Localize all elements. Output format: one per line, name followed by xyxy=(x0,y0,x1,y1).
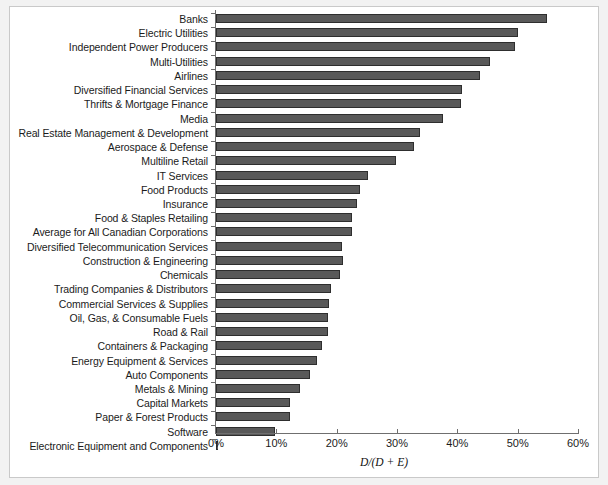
y-axis-tick xyxy=(211,397,216,398)
y-axis-tick xyxy=(211,212,216,213)
y-axis-tick xyxy=(211,69,216,70)
bar-row: IT Services xyxy=(10,169,598,183)
y-axis-tick xyxy=(211,183,216,184)
y-axis-tick xyxy=(211,254,216,255)
bar-row: Paper & Forest Products xyxy=(10,410,598,424)
bar-row: Trading Companies & Distributors xyxy=(10,282,598,296)
bar-row: Diversified Telecommunication Services xyxy=(10,240,598,254)
y-axis-tick xyxy=(211,382,216,383)
category-label: Chemicals xyxy=(160,268,208,282)
y-axis-tick xyxy=(211,112,216,113)
bar xyxy=(216,256,343,265)
y-axis-tick xyxy=(211,169,216,170)
bar xyxy=(216,14,547,23)
x-axis-tick xyxy=(578,429,579,434)
y-axis-tick xyxy=(211,126,216,127)
y-axis-tick xyxy=(211,155,216,156)
y-axis-tick xyxy=(211,411,216,412)
bar-row: Road & Rail xyxy=(10,325,598,339)
y-axis-tick xyxy=(211,269,216,270)
category-label: Commercial Services & Supplies xyxy=(59,297,208,311)
bar-row: Food Products xyxy=(10,183,598,197)
x-axis-tick-label: 40% xyxy=(446,437,468,449)
bar-row: Average for All Canadian Corporations xyxy=(10,225,598,239)
category-label: Capital Markets xyxy=(137,396,208,410)
bar xyxy=(216,384,300,393)
bar xyxy=(216,42,515,51)
bar-row: Chemicals xyxy=(10,268,598,282)
bar-row: Containers & Packaging xyxy=(10,339,598,353)
bar xyxy=(216,28,518,37)
bar-row: Aerospace & Defense xyxy=(10,140,598,154)
bar xyxy=(216,398,290,407)
bar-row: Metals & Mining xyxy=(10,382,598,396)
y-axis-tick xyxy=(211,13,216,14)
bar xyxy=(216,327,328,336)
bar xyxy=(216,370,310,379)
category-label: Multiline Retail xyxy=(141,154,208,168)
bar-row: Electric Utilities xyxy=(10,26,598,40)
category-label: Metals & Mining xyxy=(135,382,208,396)
bar-row: Auto Components xyxy=(10,368,598,382)
bar-row: Food & Staples Retailing xyxy=(10,211,598,225)
chart-plot-area: BanksElectric UtilitiesIndependent Power… xyxy=(10,7,598,477)
y-axis-line xyxy=(215,10,216,433)
bar xyxy=(216,114,443,123)
y-axis-tick xyxy=(211,311,216,312)
bar-row: Thrifts & Mortgage Finance xyxy=(10,97,598,111)
category-label: Multi-Utilities xyxy=(150,55,208,69)
category-label: Energy Equipment & Services xyxy=(71,354,208,368)
category-label: Containers & Packaging xyxy=(98,339,208,353)
y-axis-tick xyxy=(211,98,216,99)
category-label: Food Products xyxy=(141,183,208,197)
y-axis-tick xyxy=(211,354,216,355)
category-label: Electric Utilities xyxy=(139,26,208,40)
category-label: Airlines xyxy=(174,69,208,83)
x-axis-tick xyxy=(337,429,338,434)
category-label: Aerospace & Defense xyxy=(108,140,208,154)
bar-row: Media xyxy=(10,112,598,126)
bar xyxy=(216,284,331,293)
bar xyxy=(216,270,340,279)
y-axis-tick xyxy=(211,27,216,28)
bar-row: Insurance xyxy=(10,197,598,211)
y-axis-tick xyxy=(211,240,216,241)
x-axis-title: D/(D + E) xyxy=(10,456,598,468)
category-label: Independent Power Producers xyxy=(69,40,208,54)
bar-row: Airlines xyxy=(10,69,598,83)
bar xyxy=(216,57,490,66)
x-axis-tick xyxy=(397,429,398,434)
category-label: Construction & Engineering xyxy=(83,254,208,268)
bar xyxy=(216,171,368,180)
category-label: Software xyxy=(167,425,208,439)
category-label: Trading Companies & Distributors xyxy=(54,282,208,296)
y-axis-tick xyxy=(211,297,216,298)
bar xyxy=(216,341,322,350)
bar-row: Multiline Retail xyxy=(10,154,598,168)
y-axis-tick xyxy=(211,41,216,42)
y-axis-tick xyxy=(211,55,216,56)
x-axis-tick-label: 20% xyxy=(326,437,348,449)
category-label: Real Estate Management & Development xyxy=(18,126,208,140)
bar-row: Commercial Services & Supplies xyxy=(10,297,598,311)
y-axis-tick xyxy=(211,141,216,142)
bar-row: Banks xyxy=(10,12,598,26)
x-axis-tick-label: 50% xyxy=(507,437,529,449)
y-axis-tick xyxy=(211,340,216,341)
category-label: Media xyxy=(180,112,208,126)
bar xyxy=(216,85,462,94)
category-label: Diversified Telecommunication Services xyxy=(27,240,208,254)
bar xyxy=(216,99,461,108)
y-axis-tick xyxy=(211,283,216,284)
x-axis-tick xyxy=(518,429,519,434)
y-axis-tick xyxy=(211,326,216,327)
y-axis-tick xyxy=(211,425,216,426)
x-axis-tick-label: 60% xyxy=(567,437,589,449)
bar-row: Diversified Financial Services xyxy=(10,83,598,97)
category-label: Paper & Forest Products xyxy=(95,410,208,424)
bar xyxy=(216,185,360,194)
bar xyxy=(216,299,329,308)
category-label: Insurance xyxy=(163,197,208,211)
y-axis-tick xyxy=(211,84,216,85)
category-label: Banks xyxy=(179,12,208,26)
